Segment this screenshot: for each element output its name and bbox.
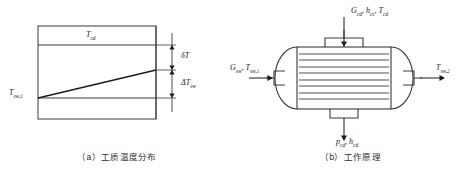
label-seawater-inlet-parameters: Gsw, Tsw,1 — [230, 63, 259, 74]
figure-root: Tcd Tsw,1 δT ΔTsw Gcd, hcs, Tcd Gsw, Tsw… — [0, 0, 467, 181]
vessel-shell — [297, 47, 391, 109]
label-seawater-inlet-temperature: Tsw,1 — [9, 88, 23, 99]
label-condensing-temperature: Tcd — [86, 30, 96, 41]
label-condensate-outlet-parameters: pcd, hcd — [336, 137, 358, 148]
arrowhead-delta-large-up — [169, 93, 174, 98]
top-inlet-arrowhead — [341, 42, 347, 48]
label-seawater-outlet-temperature: Tsw,2 — [436, 63, 450, 74]
tube-bundle — [299, 54, 389, 99]
panel-b-group — [249, 17, 445, 141]
panel-a-group — [38, 26, 176, 119]
label-delta-t-small: δT — [181, 51, 189, 60]
label-refrigerant-inlet-parameters: Gcd, hcs, Tcd — [351, 6, 388, 17]
caption-panel-a: （a）工质温度分布 — [0, 150, 234, 162]
arrowhead-delta-small-up — [169, 65, 174, 70]
arrowhead-delta-large-down — [169, 70, 174, 75]
seawater-temperature-rise-line — [38, 70, 156, 98]
bottom-nozzle — [330, 109, 358, 118]
label-delta-t-seawater: ΔTsw — [181, 78, 196, 89]
caption-panel-b: （b）工作原理 — [234, 150, 467, 162]
vessel-left-head — [275, 47, 297, 109]
arrowhead-delta-small-down — [169, 45, 174, 50]
right-outlet-arrowhead — [440, 75, 446, 81]
vessel-right-head — [391, 47, 413, 109]
left-inlet-arrowhead — [268, 75, 274, 81]
chart-outer-box — [38, 26, 156, 119]
